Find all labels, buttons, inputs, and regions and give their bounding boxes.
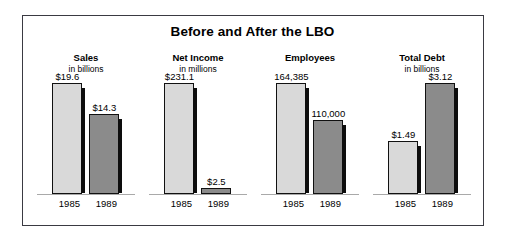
bar-1989[interactable] xyxy=(201,188,231,194)
group-title: Total Debt xyxy=(366,52,478,64)
bar-slot-1989: $2.5 xyxy=(201,83,235,194)
baseline-axis xyxy=(373,194,472,195)
bar-1985[interactable] xyxy=(276,83,306,194)
bar-shadow-face xyxy=(454,88,458,193)
bar-value-label-1989: $3.12 xyxy=(416,71,464,82)
bar-group-total-debt: Total Debt in billions $1.49 $3.12 xyxy=(366,52,478,220)
baseline-axis xyxy=(37,194,136,195)
bar-slot-1989: $3.12 xyxy=(425,83,459,194)
group-plot-area: $1.49 $3.12 xyxy=(366,84,478,195)
year-tick-labels: 1985 1989 xyxy=(30,198,142,214)
year-tick-labels: 1985 1989 xyxy=(366,198,478,214)
bar-value-label-1985: $1.49 xyxy=(379,129,427,140)
year-tick-labels: 1985 1989 xyxy=(254,198,366,214)
group-plot-area: $19.6 $14.3 xyxy=(30,84,142,195)
bar-1989[interactable] xyxy=(313,120,343,194)
year-label-1989: 1989 xyxy=(306,198,354,209)
bar-shadow-face xyxy=(118,119,122,193)
group-plot-area: 164,385 110,000 xyxy=(254,84,366,195)
bar-1989[interactable] xyxy=(89,114,119,194)
bar-group-employees: Employees 164,385 110,000 xyxy=(254,52,366,220)
year-tick-labels: 1985 1989 xyxy=(142,198,254,214)
group-title: Net Income xyxy=(142,52,254,64)
chart-canvas: Before and After the LBO Sales in billio… xyxy=(0,0,505,241)
bar-shadow-face xyxy=(342,125,346,193)
chart-title: Before and After the LBO xyxy=(0,24,505,39)
bar-value-label-1985: $231.1 xyxy=(155,71,203,82)
year-label-1989: 1989 xyxy=(194,198,242,209)
bar-1985[interactable] xyxy=(388,141,418,194)
bar-1989[interactable] xyxy=(425,83,455,194)
bar-group-net-income: Net Income in millions $231.1 $2.5 xyxy=(142,52,254,220)
bar-slot-1985: $19.6 xyxy=(52,83,86,194)
group-title: Sales xyxy=(30,52,142,64)
bar-value-label-1989: $2.5 xyxy=(192,176,240,187)
bar-slot-1989: 110,000 xyxy=(313,83,347,194)
bar-group-sales: Sales in billions $19.6 $14.3 xyxy=(30,52,142,220)
bar-slot-1989: $14.3 xyxy=(89,83,123,194)
group-title: Employees xyxy=(254,52,366,64)
bar-groups-container: Sales in billions $19.6 $14.3 xyxy=(30,52,478,220)
bar-slot-1985: 164,385 xyxy=(276,83,310,194)
bar-value-label-1985: 164,385 xyxy=(267,71,315,82)
group-header: Employees xyxy=(254,52,366,64)
bar-1985[interactable] xyxy=(164,83,194,194)
bar-value-label-1989: $14.3 xyxy=(80,102,128,113)
group-plot-area: $231.1 $2.5 xyxy=(142,84,254,195)
bar-shadow-face xyxy=(417,146,421,193)
bar-slot-1985: $1.49 xyxy=(388,83,422,194)
year-label-1989: 1989 xyxy=(418,198,466,209)
baseline-axis xyxy=(149,194,248,195)
baseline-axis xyxy=(261,194,360,195)
bar-value-label-1985: $19.6 xyxy=(43,71,91,82)
bar-value-label-1989: 110,000 xyxy=(304,108,352,119)
bar-shadow-face xyxy=(305,88,309,193)
year-label-1989: 1989 xyxy=(82,198,130,209)
bar-1985[interactable] xyxy=(52,83,82,194)
